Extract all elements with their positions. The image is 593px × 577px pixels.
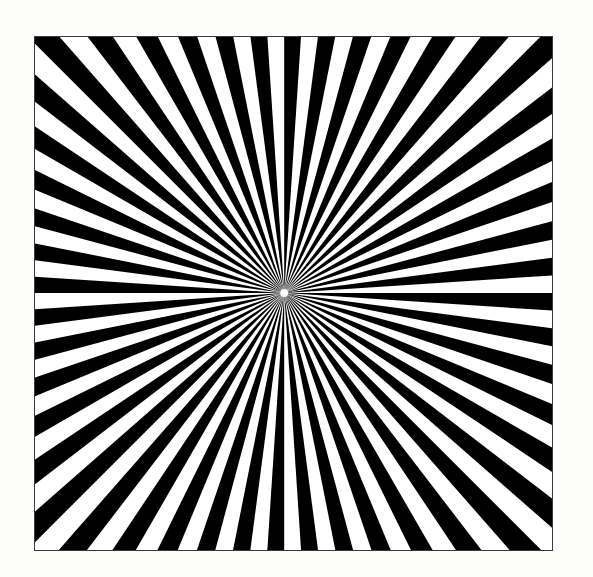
starburst-frame: [34, 36, 553, 551]
center-convergence-point: [280, 289, 288, 297]
starburst-illustration: [35, 37, 552, 550]
figure-root: [0, 0, 593, 577]
